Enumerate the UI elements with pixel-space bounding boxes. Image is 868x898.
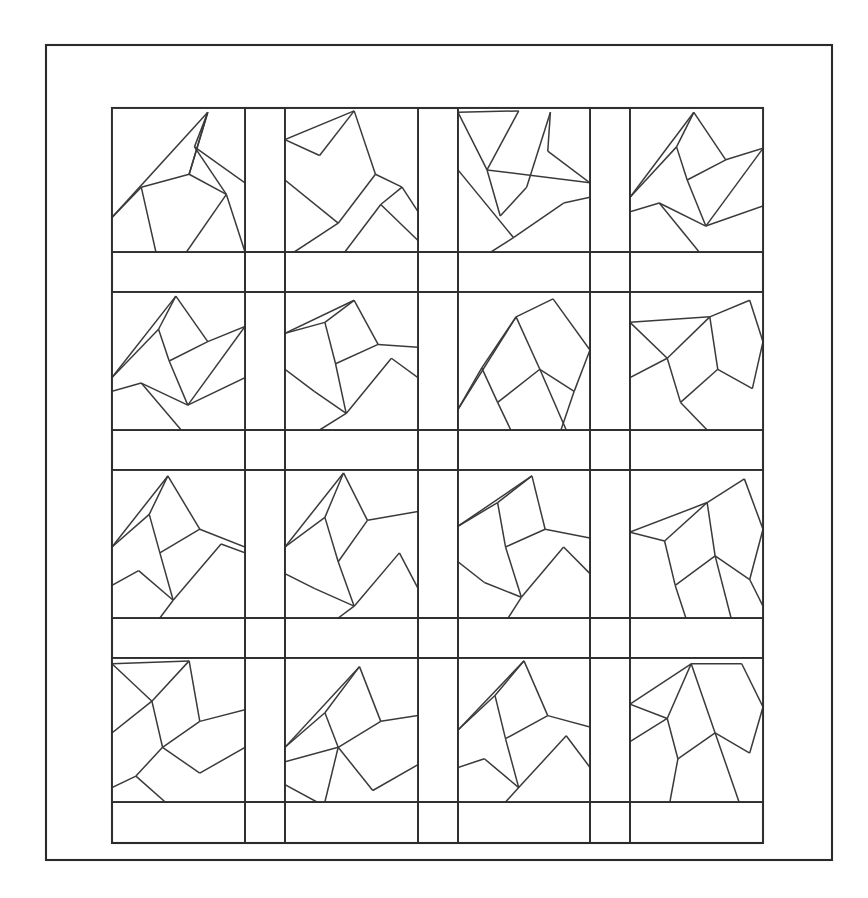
block-background: [458, 658, 590, 802]
block-background: [112, 108, 245, 252]
quilt-block-r0-c3: [630, 108, 763, 252]
quilt-block-r1-c1: [285, 292, 418, 430]
quilt-block-r0-c0: [112, 108, 245, 252]
quilt-svg: [0, 0, 868, 898]
quilt-block-r2-c2: [458, 470, 590, 618]
quilt-block-r0-c2: [458, 108, 590, 252]
block-background: [630, 470, 763, 618]
quilt-block-r2-c1: [285, 470, 418, 618]
quilt-block-r0-c1: [285, 108, 418, 252]
block-background: [112, 658, 245, 802]
quilt-block-r2-c3: [630, 470, 763, 618]
quilt-block-r3-c3: [630, 658, 763, 802]
quilt-block-r3-c0: [112, 658, 245, 802]
quilt-diagram-canvas: [0, 0, 868, 898]
block-background: [285, 108, 418, 252]
quilt-block-r1-c3: [630, 292, 763, 430]
block-background: [285, 292, 418, 430]
block-background: [112, 292, 245, 430]
quilt-block-r1-c2: [458, 292, 590, 430]
block-background: [630, 108, 763, 252]
quilt-block-r3-c2: [458, 658, 590, 802]
quilt-block-r1-c0: [112, 292, 245, 430]
block-background: [112, 470, 245, 618]
block-background: [458, 470, 590, 618]
quilt-block-r2-c0: [112, 470, 245, 618]
block-background: [630, 292, 763, 430]
quilt-block-r3-c1: [285, 658, 418, 802]
